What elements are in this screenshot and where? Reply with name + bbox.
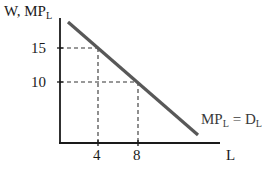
x-axis-label: L <box>226 148 235 163</box>
curve-label-mp-subscript: L <box>223 118 229 129</box>
y-axis-label-subscript: L <box>46 10 52 21</box>
y-axis-label-main: W, MP <box>4 3 46 19</box>
labor-demand-chart: W, MPL L 15 10 4 8 MPL = DL <box>0 0 276 173</box>
curve-label-mp: MP <box>201 111 223 127</box>
x-tick-label-8: 8 <box>133 148 141 163</box>
y-tick-label-10: 10 <box>31 75 46 90</box>
curve-label-d-subscript: L <box>256 118 262 129</box>
demand-curve-label: MPL = DL <box>201 112 262 127</box>
y-axis-label: W, MPL <box>4 4 52 19</box>
y-tick-label-15: 15 <box>31 41 46 56</box>
x-tick-label-4: 4 <box>93 148 101 163</box>
curve-label-equals: = D <box>229 111 256 127</box>
